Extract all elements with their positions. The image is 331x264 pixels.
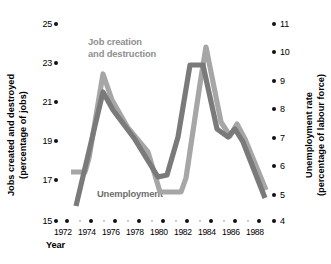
chart-figure: Jobs created and destroyed (percentage o… <box>0 0 331 264</box>
series-line-unemployment <box>76 65 265 206</box>
plot-area <box>0 0 331 264</box>
bottom-caption-fragment <box>40 256 295 263</box>
